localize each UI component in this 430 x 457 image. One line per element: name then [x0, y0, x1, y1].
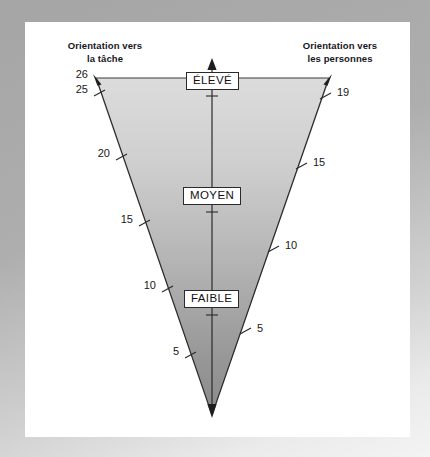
right-tick-label-19: 19 [337, 87, 349, 98]
right-tick-label-10: 10 [285, 240, 297, 251]
level-box-eleve: ÉLEVÉ [186, 72, 239, 90]
left-tick-label-10: 10 [126, 280, 156, 291]
left-tick-label-25: 25 [58, 84, 88, 95]
axis-title-task: Orientation vers la tâche [46, 39, 164, 65]
figure-root: Orientation vers la tâche Orientation ve… [0, 0, 430, 457]
center-axis-arrow-down [207, 404, 216, 418]
left-tick-label-15: 15 [103, 214, 133, 225]
level-box-faible: FAIBLE [184, 290, 239, 308]
right-tick-label-5: 5 [257, 323, 263, 334]
right-tick-label-15: 15 [313, 157, 325, 168]
left-tick-label-20: 20 [80, 148, 110, 159]
level-box-moyen: MOYEN [183, 187, 241, 205]
left-tick-label-5: 5 [149, 346, 179, 357]
center-axis-arrow-up [207, 58, 216, 70]
left-tick-label-26: 26 [58, 69, 88, 80]
axis-title-people: Orientation vers les personnes [277, 39, 403, 65]
